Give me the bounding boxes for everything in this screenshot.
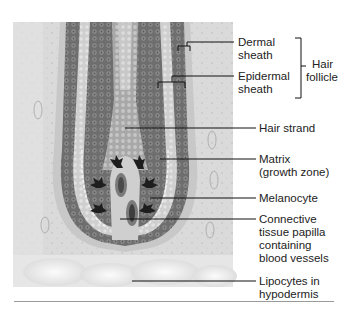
label-line: containing <box>259 239 329 252</box>
label-line: Melanocyte <box>259 192 318 205</box>
label-line: blood vessels <box>259 252 329 265</box>
label-line: Matrix <box>259 153 329 166</box>
label-dermal-sheath: Dermal sheath <box>238 36 275 62</box>
label-melanocyte: Melanocyte <box>259 192 318 205</box>
label-matrix: Matrix (growth zone) <box>259 153 329 179</box>
hair-follicle-diagram: Dermal sheath Epidermal sheath Hair foll… <box>0 0 348 316</box>
bottom-divider <box>14 301 334 302</box>
label-line: tissue papilla <box>259 226 329 239</box>
label-line: follicle <box>306 71 338 84</box>
label-hair-strand: Hair strand <box>259 122 315 135</box>
label-line: Dermal <box>238 36 275 49</box>
label-line: Lipocytes in <box>259 275 320 288</box>
label-papilla: Connective tissue papilla containing blo… <box>259 213 329 265</box>
label-line: Hair <box>306 58 338 71</box>
label-lipocytes: Lipocytes in hypodermis <box>259 275 320 301</box>
label-line: Hair strand <box>259 122 315 135</box>
label-epidermal-sheath: Epidermal sheath <box>238 70 290 96</box>
label-line: Epidermal <box>238 70 290 83</box>
label-line: sheath <box>238 83 290 96</box>
label-hair-follicle: Hair follicle <box>306 58 338 84</box>
label-line: sheath <box>238 49 275 62</box>
label-line: hypodermis <box>259 288 320 301</box>
label-line: Connective <box>259 213 329 226</box>
label-line: (growth zone) <box>259 166 329 179</box>
